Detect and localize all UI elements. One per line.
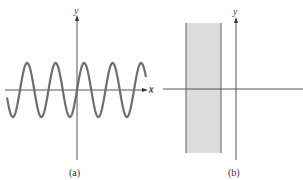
- panel-b-caption: (b): [228, 167, 240, 179]
- panel-a-caption: (a): [69, 167, 80, 179]
- figure-canvas: x y (a) x y (b): [0, 0, 303, 180]
- y-axis-label: y: [73, 5, 79, 16]
- y-axis-arrow-icon: [234, 17, 238, 23]
- x-axis-label: x: [148, 83, 154, 94]
- panel-a: x y (a): [5, 5, 154, 179]
- x-axis-arrow-icon: [142, 88, 148, 92]
- panel-b: x y (b): [148, 6, 303, 179]
- y-axis-label: y: [232, 6, 238, 17]
- shaded-strip: [186, 23, 221, 153]
